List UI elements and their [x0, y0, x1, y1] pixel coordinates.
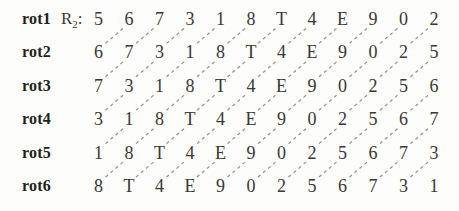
cell-rot4-col11: 7 — [419, 108, 449, 130]
cell-rot3-col9: 2 — [358, 75, 388, 97]
cell-rot1-col4: 1 — [206, 8, 236, 30]
cell-rot4-col9: 5 — [358, 108, 388, 130]
cell-rot3-col1: 3 — [114, 75, 144, 97]
cell-rot4-col5: E — [236, 108, 266, 130]
cell-rot6-col4: 9 — [206, 175, 236, 197]
cell-rot1-col2: 7 — [145, 8, 175, 30]
cell-rot4-col1: 1 — [114, 108, 144, 130]
cell-rot5-col11: 3 — [419, 142, 449, 164]
cell-rot2-col10: 2 — [389, 41, 419, 63]
cell-rot5-col1: 8 — [114, 142, 144, 164]
cell-rot6-col7: 5 — [297, 175, 327, 197]
cell-rot6-col6: 2 — [267, 175, 297, 197]
row-label-rot5: rot5 — [22, 142, 62, 164]
cell-rot1-col9: 9 — [358, 8, 388, 30]
cell-rot5-col9: 6 — [358, 142, 388, 164]
cell-rot1-col10: 0 — [389, 8, 419, 30]
cell-rot2-col6: 4 — [267, 41, 297, 63]
row-designation-r2: R2: — [61, 8, 83, 30]
cell-rot6-col10: 3 — [389, 175, 419, 197]
cell-rot1-col7: 4 — [297, 8, 327, 30]
cell-rot6-col2: 4 — [145, 175, 175, 197]
cell-rot5-col2: T — [145, 142, 175, 164]
cell-rot4-col8: 2 — [328, 108, 358, 130]
cell-rot2-col8: 9 — [328, 41, 358, 63]
r2-colon: : — [78, 9, 83, 28]
cell-rot1-col1: 6 — [114, 8, 144, 30]
cell-rot3-col5: 4 — [236, 75, 266, 97]
cell-rot4-col7: 0 — [297, 108, 327, 130]
cell-rot3-col0: 7 — [84, 75, 114, 97]
rotation-figure: rot1R2:567318T4E902rot267318T4E9025rot37… — [0, 0, 459, 211]
cell-rot2-col3: 1 — [175, 41, 205, 63]
cell-rot5-col5: 9 — [236, 142, 266, 164]
cell-rot5-col4: E — [206, 142, 236, 164]
cell-rot2-col1: 7 — [114, 41, 144, 63]
cell-rot2-col4: 8 — [206, 41, 236, 63]
cell-rot6-col9: 7 — [358, 175, 388, 197]
r2-base: R — [61, 9, 72, 28]
cell-rot3-col11: 6 — [419, 75, 449, 97]
cell-rot3-col3: 8 — [175, 75, 205, 97]
cell-rot5-col10: 7 — [389, 142, 419, 164]
cell-rot6-col0: 8 — [84, 175, 114, 197]
cell-rot3-col6: E — [267, 75, 297, 97]
row-label-rot6: rot6 — [22, 175, 62, 197]
cell-rot2-col9: 0 — [358, 41, 388, 63]
cell-rot5-col8: 5 — [328, 142, 358, 164]
cell-rot6-col5: 0 — [236, 175, 266, 197]
cell-rot5-col3: 4 — [175, 142, 205, 164]
r2-subscript: 2 — [72, 18, 78, 30]
row-label-rot2: rot2 — [22, 41, 62, 63]
cell-rot3-col10: 5 — [389, 75, 419, 97]
cell-rot3-col4: T — [206, 75, 236, 97]
cell-rot5-col0: 1 — [84, 142, 114, 164]
cell-rot2-col2: 3 — [145, 41, 175, 63]
cell-rot3-col2: 1 — [145, 75, 175, 97]
cell-rot4-col3: T — [175, 108, 205, 130]
row-label-rot1: rot1 — [22, 8, 62, 30]
cell-rot2-col11: 5 — [419, 41, 449, 63]
cell-rot1-col11: 2 — [419, 8, 449, 30]
cell-rot4-col4: 4 — [206, 108, 236, 130]
cell-rot5-col6: 0 — [267, 142, 297, 164]
row-label-rot3: rot3 — [22, 75, 62, 97]
cell-rot4-col2: 8 — [145, 108, 175, 130]
cell-rot1-col8: E — [328, 8, 358, 30]
cell-rot4-col0: 3 — [84, 108, 114, 130]
cell-rot2-col5: T — [236, 41, 266, 63]
cell-rot1-col0: 5 — [84, 8, 114, 30]
row-label-rot4: rot4 — [22, 108, 62, 130]
cell-rot1-col6: T — [267, 8, 297, 30]
cell-rot1-col3: 3 — [175, 8, 205, 30]
cell-rot4-col6: 9 — [267, 108, 297, 130]
cell-rot3-col7: 9 — [297, 75, 327, 97]
cell-rot6-col3: E — [175, 175, 205, 197]
cell-rot6-col8: 6 — [328, 175, 358, 197]
cell-rot6-col11: 1 — [419, 175, 449, 197]
cell-rot6-col1: T — [114, 175, 144, 197]
cell-rot3-col8: 0 — [328, 75, 358, 97]
cell-rot5-col7: 2 — [297, 142, 327, 164]
cell-rot4-col10: 6 — [389, 108, 419, 130]
cell-rot2-col0: 6 — [84, 41, 114, 63]
cell-rot2-col7: E — [297, 41, 327, 63]
cell-rot1-col5: 8 — [236, 8, 266, 30]
